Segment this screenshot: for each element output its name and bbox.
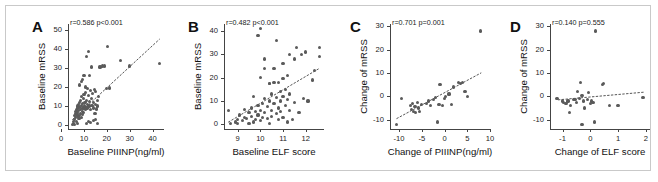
data-point xyxy=(76,122,79,125)
x-tick xyxy=(238,129,239,132)
y-tick-label: 20 xyxy=(210,73,218,82)
data-point xyxy=(256,113,259,116)
data-point xyxy=(250,106,253,109)
x-tick-label: 20 xyxy=(97,134,117,143)
x-tick xyxy=(399,129,400,132)
y-tick-label: 0 xyxy=(58,120,62,129)
data-point xyxy=(578,97,581,100)
data-point xyxy=(256,104,259,107)
x-tick xyxy=(445,129,446,132)
data-point xyxy=(266,117,269,120)
data-point xyxy=(438,83,441,86)
data-point xyxy=(256,34,259,37)
x-tick xyxy=(467,129,468,132)
data-point xyxy=(580,94,583,97)
data-point xyxy=(272,102,275,105)
x-tick-label: 2 xyxy=(636,134,656,143)
data-point xyxy=(277,81,280,84)
x-tick-label: 0 xyxy=(435,134,455,143)
data-point xyxy=(236,122,239,125)
x-tick-label: 0 xyxy=(580,134,600,143)
data-point xyxy=(128,64,131,67)
y-tick-label: 20 xyxy=(376,45,384,54)
data-point xyxy=(103,64,106,67)
data-point xyxy=(119,59,122,62)
data-point xyxy=(259,109,262,112)
data-point xyxy=(272,67,275,70)
y-axis-label-a: Baseline mRSS xyxy=(36,24,47,129)
data-point xyxy=(96,99,99,102)
y-axis-label-b: Baseline mRSS xyxy=(192,24,203,129)
data-point xyxy=(96,104,99,107)
y-tick-label: 30 xyxy=(536,21,544,30)
y-tick-label: 20 xyxy=(54,82,62,91)
y-tick-label: 10 xyxy=(54,101,62,110)
x-tick-label: -10 xyxy=(389,134,409,143)
data-point xyxy=(268,122,271,125)
data-point xyxy=(93,112,96,115)
data-point xyxy=(90,65,93,68)
data-point xyxy=(90,97,93,100)
data-point xyxy=(275,39,278,42)
data-point xyxy=(270,92,273,95)
data-point xyxy=(268,99,271,102)
plot-area-c: -100102030-10-50510 xyxy=(390,24,490,129)
scatter-panel-d: Dr=0.140 p=0.555-100102030-1012Change of… xyxy=(498,6,658,172)
x-tick xyxy=(84,129,85,132)
y-tick-label: 50 xyxy=(54,25,62,34)
data-point xyxy=(616,104,619,107)
data-point xyxy=(94,118,97,121)
data-point xyxy=(427,99,430,102)
y-tick-label: 0 xyxy=(540,91,544,100)
data-point xyxy=(250,115,253,118)
y-tick-label: 10 xyxy=(376,68,384,77)
y-tick-label: 0 xyxy=(380,91,384,100)
scatter-panel-a: Ar=0.586 p<0.00101020304050010203040Base… xyxy=(16,6,188,172)
data-point xyxy=(272,81,275,84)
figure-container: Ar=0.586 p<0.00101020304050010203040Base… xyxy=(5,5,651,171)
data-point xyxy=(247,111,250,114)
data-point xyxy=(95,107,98,110)
x-axis-line xyxy=(390,129,490,130)
x-tick-label: -1 xyxy=(553,134,573,143)
x-tick-label: 40 xyxy=(143,134,163,143)
x-tick xyxy=(153,129,154,132)
x-tick xyxy=(490,129,491,132)
data-point xyxy=(416,101,419,104)
data-point xyxy=(575,101,578,104)
x-tick-label: 9 xyxy=(228,134,248,143)
data-point xyxy=(78,83,81,86)
x-tick xyxy=(646,129,647,132)
x-tick xyxy=(130,129,131,132)
data-point xyxy=(579,81,582,84)
x-tick xyxy=(618,129,619,132)
data-point xyxy=(293,101,296,104)
x-tick-label: 12 xyxy=(296,134,316,143)
x-tick-label: 10 xyxy=(480,134,500,143)
y-tick-label: -10 xyxy=(533,115,544,124)
plot-area-d: -100102030-1012 xyxy=(550,24,650,129)
x-tick xyxy=(260,129,261,132)
x-tick-label: 11 xyxy=(273,134,293,143)
trendline-d xyxy=(550,24,650,129)
x-tick xyxy=(563,129,564,132)
y-tick-label: 0 xyxy=(214,119,218,128)
x-tick-label: 1 xyxy=(608,134,628,143)
data-point xyxy=(566,99,569,102)
data-point xyxy=(436,120,439,123)
data-point xyxy=(466,95,469,98)
data-point xyxy=(286,120,289,123)
x-axis-line xyxy=(68,129,164,130)
data-point xyxy=(311,78,314,81)
data-point xyxy=(82,74,85,77)
x-tick xyxy=(590,129,591,132)
x-tick-label: 0 xyxy=(51,134,71,143)
data-point xyxy=(247,122,250,125)
y-axis-label-d: Change of mRSS xyxy=(518,24,529,129)
y-tick-label: 40 xyxy=(54,44,62,53)
x-tick xyxy=(306,129,307,132)
data-point xyxy=(291,118,294,121)
y-tick-label: -10 xyxy=(373,115,384,124)
data-point xyxy=(87,50,90,53)
data-point xyxy=(281,95,284,98)
